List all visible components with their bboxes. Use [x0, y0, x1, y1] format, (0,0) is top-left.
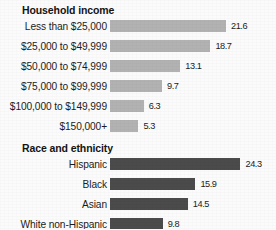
bar-track: 21.6 [110, 20, 276, 32]
bar-value-label: 15.9 [200, 179, 216, 190]
section-title-race-ethnicity: Race and ethnicity [22, 142, 113, 154]
bar-row: Asian14.5 [0, 196, 276, 216]
bar-value-label: 9.7 [167, 81, 178, 92]
bar-category-label: Black [0, 179, 107, 191]
bar [110, 40, 210, 52]
bar [110, 80, 162, 92]
bar-track: 13.1 [110, 60, 276, 72]
section-title-household-income: Household income [22, 4, 114, 16]
bar-value-label: 14.5 [193, 199, 209, 210]
bar-track: 24.3 [110, 158, 276, 170]
bar-category-label: Hispanic [0, 159, 107, 171]
bar-category-label: $50,000 to $74,999 [0, 61, 107, 73]
bar-row: $100,000 to $149,9996.3 [0, 98, 276, 118]
bar-row: $75,000 to $99,9999.7 [0, 78, 276, 98]
bar [110, 100, 144, 112]
grouped-bar-chart: Household income Less than $25,00021.6$2… [0, 0, 276, 229]
bar-value-label: 21.6 [231, 21, 247, 32]
bar-category-label: $150,000+ [0, 121, 107, 133]
bar [110, 198, 188, 210]
bar-row: $150,000+5.3 [0, 118, 276, 138]
bar-row: $25,000 to $49,99918.7 [0, 38, 276, 58]
bar-row: Black15.9 [0, 176, 276, 196]
bar-category-label: $75,000 to $99,999 [0, 81, 107, 93]
bar [110, 178, 195, 190]
bar-value-label: 24.3 [245, 159, 261, 170]
bar-value-label: 9.8 [168, 219, 179, 229]
bar-row: $50,000 to $74,99913.1 [0, 58, 276, 78]
bar-value-label: 5.3 [143, 121, 154, 132]
bar-category-label: $25,000 to $49,999 [0, 41, 107, 53]
bar-row: Hispanic24.3 [0, 156, 276, 176]
bar [110, 60, 180, 72]
bar-category-label: White non-Hispanic [0, 219, 107, 230]
bar-track: 9.7 [110, 80, 276, 92]
bar-value-label: 6.3 [149, 101, 160, 112]
bar [110, 20, 226, 32]
bar-category-label: $100,000 to $149,999 [0, 101, 107, 113]
bar [110, 120, 138, 132]
bar-track: 6.3 [110, 100, 276, 112]
bar [110, 158, 240, 170]
bar-category-label: Less than $25,000 [0, 21, 107, 33]
bar [110, 218, 163, 229]
bar-track: 18.7 [110, 40, 276, 52]
bar-track: 15.9 [110, 178, 276, 190]
bar-value-label: 18.7 [215, 41, 231, 52]
bar-track: 5.3 [110, 120, 276, 132]
bar-track: 14.5 [110, 198, 276, 210]
bar-row: White non-Hispanic9.8 [0, 216, 276, 229]
bar-value-label: 13.1 [185, 61, 201, 72]
bar-track: 9.8 [110, 218, 276, 229]
bar-row: Less than $25,00021.6 [0, 18, 276, 38]
bar-category-label: Asian [0, 199, 107, 211]
